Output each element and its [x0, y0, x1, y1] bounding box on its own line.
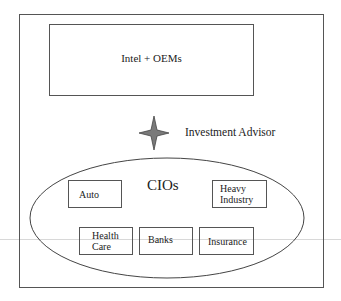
four-point-star-icon [139, 116, 169, 150]
health-care-box: Health Care [79, 227, 133, 255]
investment-advisor-label: Investment Advisor [185, 126, 275, 138]
auto-box: Auto [68, 180, 122, 208]
banks-label: Banks [140, 234, 173, 245]
health-care-label: Health Care [80, 230, 119, 252]
heavy-industry-label: Heavy Industry [213, 183, 253, 205]
cios-ellipse [30, 158, 304, 278]
insurance-label: Insurance [200, 236, 247, 247]
banks-box: Banks [139, 227, 193, 255]
auto-label: Auto [69, 189, 99, 200]
diagram-shapes [0, 0, 341, 301]
insurance-box: Insurance [199, 227, 254, 255]
heavy-industry-box: Heavy Industry [212, 180, 267, 208]
cios-label: CIOs [147, 177, 179, 194]
